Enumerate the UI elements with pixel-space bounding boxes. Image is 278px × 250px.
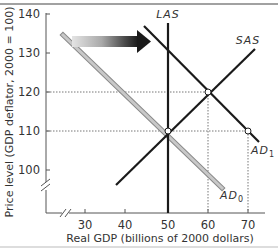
x-axis <box>46 209 265 217</box>
x-tick-50: 50 <box>161 218 176 232</box>
y-axis-title: Price level (GDP deflator, 2000 = 100) <box>3 7 16 218</box>
ad1-label-sub: 1 <box>269 150 275 159</box>
y-tick-140: 140 <box>18 7 40 21</box>
ad1-label: AD1 <box>250 144 275 159</box>
y-tick-100: 100 <box>18 163 40 177</box>
y-tick-120: 120 <box>18 85 40 99</box>
ad0-curve <box>63 35 222 188</box>
y-tick-110: 110 <box>18 124 40 138</box>
ad-as-diagram: 140 130 120 110 100 30 40 50 60 70 Real … <box>0 0 278 250</box>
sas-label: SAS <box>236 34 261 47</box>
ad0-label-main: AD <box>219 189 238 202</box>
ad1-label-main: AD <box>250 144 269 157</box>
equilibrium-point-60-120 <box>205 89 211 95</box>
x-tick-40: 40 <box>118 218 133 232</box>
x-axis-title: Real GDP (billions of 2000 dollars) <box>66 232 253 245</box>
y-axis <box>41 13 50 213</box>
shift-right-arrow-icon <box>72 30 151 53</box>
equilibrium-point-50-110 <box>165 128 171 134</box>
x-tick-60: 60 <box>201 218 216 232</box>
ad0-label: AD0 <box>219 189 244 204</box>
x-tick-30: 30 <box>78 218 93 232</box>
y-tick-130: 130 <box>18 46 40 60</box>
point-70-110 <box>245 128 251 134</box>
guide-lines <box>47 92 248 212</box>
las-label: LAS <box>156 8 180 21</box>
ad0-label-sub: 0 <box>238 195 244 204</box>
x-tick-70: 70 <box>241 218 256 232</box>
